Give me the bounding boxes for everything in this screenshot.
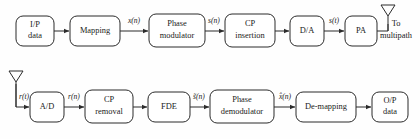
rx-antenna bbox=[9, 71, 23, 107]
signal-label-r-n: r(n) bbox=[68, 92, 80, 101]
block-op-data-label-2: data bbox=[383, 107, 397, 116]
block-de-mapping[interactable]: De-mapping bbox=[296, 92, 356, 122]
block-cp-insertion-label-1: CP bbox=[245, 19, 256, 28]
block-cp-removal[interactable]: CP removal bbox=[85, 90, 133, 123]
tx-antenna-triangle-icon bbox=[381, 5, 395, 16]
block-fde[interactable]: FDE bbox=[148, 92, 190, 122]
block-mapping-label-1: Mapping bbox=[80, 26, 111, 35]
block-phase-modulator-label-2: modulator bbox=[160, 31, 195, 40]
block-ad-converter[interactable]: A/D bbox=[30, 92, 64, 122]
block-ad-converter-label-1: A/D bbox=[40, 102, 54, 111]
signal-label-x-hat-n: x̂(n) bbox=[278, 92, 292, 101]
block-phase-modulator-label-1: Phase bbox=[167, 19, 187, 28]
signal-label-r-t: r(t) bbox=[19, 92, 30, 101]
block-ip-data-label-1: I/P bbox=[30, 20, 40, 29]
block-cp-removal-label-2: removal bbox=[95, 107, 123, 116]
signal-label-s-n: s(n) bbox=[208, 16, 220, 25]
transmitter-blocks: I/P data Mapping Phase modulator CP inse… bbox=[16, 14, 377, 47]
annotation-to-multipath-line-2: multipath bbox=[380, 31, 413, 40]
block-phase-modulator[interactable]: Phase modulator bbox=[149, 14, 205, 47]
block-da-converter[interactable]: D/A bbox=[290, 16, 324, 46]
block-op-data[interactable]: O/P data bbox=[372, 92, 408, 122]
block-de-mapping-label-1: De-mapping bbox=[305, 102, 348, 111]
block-ip-data-label-2: data bbox=[28, 31, 42, 40]
block-ip-data[interactable]: I/P data bbox=[16, 16, 54, 46]
block-phase-demodulator-label-2: demodulator bbox=[221, 107, 264, 116]
block-power-amplifier[interactable]: PA bbox=[345, 16, 377, 46]
block-mapping[interactable]: Mapping bbox=[70, 16, 120, 46]
annotation-to-multipath: To multipath bbox=[380, 19, 413, 40]
signal-label-s-tilde-n: s̃(n) bbox=[193, 92, 205, 101]
diagram-canvas: I/P data Mapping Phase modulator CP inse… bbox=[0, 0, 420, 139]
block-cp-removal-label-1: CP bbox=[104, 95, 115, 104]
block-da-converter-label-1: D/A bbox=[300, 26, 314, 35]
signal-label-s-t: s(t) bbox=[329, 16, 340, 25]
receiver-blocks: A/D CP removal FDE Phase demodulator De-… bbox=[30, 90, 408, 123]
block-power-amplifier-label-1: PA bbox=[356, 26, 366, 35]
block-op-data-label-1: O/P bbox=[383, 96, 396, 105]
signal-label-x-n: x(n) bbox=[127, 16, 141, 25]
block-fde-label-1: FDE bbox=[161, 102, 177, 111]
block-phase-demodulator[interactable]: Phase demodulator bbox=[210, 90, 274, 123]
transceiver-block-diagram: I/P data Mapping Phase modulator CP inse… bbox=[0, 0, 420, 139]
annotation-to-multipath-line-1: To bbox=[392, 19, 401, 28]
block-cp-insertion[interactable]: CP insertion bbox=[225, 14, 275, 47]
block-cp-insertion-label-2: insertion bbox=[235, 31, 265, 40]
rx-antenna-triangle-icon bbox=[9, 71, 23, 82]
block-phase-demodulator-label-1: Phase bbox=[232, 95, 252, 104]
